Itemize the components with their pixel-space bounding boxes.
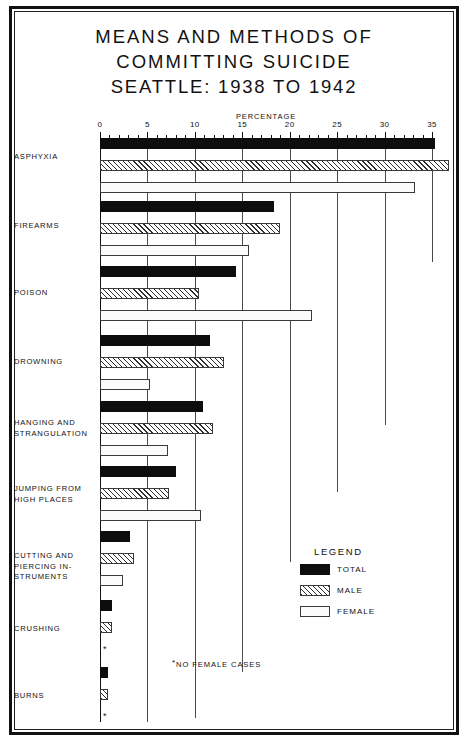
bar-total-poison <box>100 266 236 277</box>
category-label-line: DROWNING <box>14 357 98 368</box>
category-label-asphyxia: ASPHYXIA <box>14 152 98 163</box>
no-data-marker-female-7: * <box>103 644 107 655</box>
category-label-line: FIREARMS <box>14 221 98 232</box>
category-label-line: JUMPING FROM <box>14 484 98 495</box>
category-label-line: STRUMENTS <box>14 572 98 583</box>
legend-item-male: MALE <box>300 585 430 596</box>
gridline-35 <box>432 139 433 262</box>
bar-female-hanging-and-strangulation <box>100 445 168 456</box>
chart-page: MEANS AND METHODS OF COMMITTING SUICIDE … <box>0 0 468 747</box>
bar-total-jumping-from-high-places <box>100 466 176 477</box>
category-label-line: ASPHYXIA <box>14 152 98 163</box>
legend-item-female: FEMALE <box>300 606 430 617</box>
x-axis-tick-labels: 05101520253035 <box>0 120 468 132</box>
no-data-marker-female-8: * <box>103 711 107 722</box>
bar-male-burns <box>100 689 108 700</box>
legend: LEGEND TOTALMALEFEMALE <box>300 546 430 627</box>
category-label-crushing: CRUSHING <box>14 624 98 635</box>
bar-total-hanging-and-strangulation <box>100 401 203 412</box>
gridline-15 <box>242 139 243 672</box>
x-tick-label-10: 10 <box>190 120 200 129</box>
legend-title: LEGEND <box>314 546 430 557</box>
title-line-1: MEANS AND METHODS OF <box>14 24 454 49</box>
bar-female-jumping-from-high-places <box>100 510 201 521</box>
bar-male-firearms <box>100 223 280 234</box>
bar-male-asphyxia <box>100 160 449 171</box>
title-line-3: SEATTLE: 1938 TO 1942 <box>14 74 454 99</box>
bar-total-burns <box>100 667 108 678</box>
category-label-line: CUTTING AND <box>14 551 98 562</box>
legend-swatch-female <box>300 606 330 617</box>
x-tick-label-35: 35 <box>427 120 437 129</box>
category-label-poison: POISON <box>14 288 98 299</box>
bar-male-crushing <box>100 622 112 633</box>
legend-item-total: TOTAL <box>300 564 430 575</box>
bar-female-asphyxia <box>100 182 415 193</box>
category-label-line: HIGH PLACES <box>14 495 98 506</box>
category-label-line: POISON <box>14 288 98 299</box>
chart-title: MEANS AND METHODS OF COMMITTING SUICIDE … <box>14 24 454 99</box>
bar-male-jumping-from-high-places <box>100 488 169 499</box>
category-label-jumping-from-high-places: JUMPING FROMHIGH PLACES <box>14 484 98 505</box>
legend-label-female: FEMALE <box>337 607 375 616</box>
x-tick-label-25: 25 <box>332 120 342 129</box>
bar-female-poison <box>100 310 312 321</box>
category-label-cutting-and-piercing-instruments: CUTTING ANDPIERCING IN-STRUMENTS <box>14 551 98 583</box>
category-label-drowning: DROWNING <box>14 357 98 368</box>
legend-label-total: TOTAL <box>337 565 367 574</box>
category-label-line: PIERCING IN- <box>14 562 98 573</box>
x-tick-label-30: 30 <box>380 120 390 129</box>
x-tick-label-0: 0 <box>98 120 103 129</box>
category-label-hanging-and-strangulation: HANGING ANDSTRANGULATION <box>14 418 98 439</box>
legend-swatch-male <box>300 585 330 596</box>
category-label-burns: BURNS <box>14 691 98 702</box>
legend-swatch-total <box>300 564 330 575</box>
x-tick-label-20: 20 <box>285 120 295 129</box>
category-label-line: HANGING AND <box>14 418 98 429</box>
bar-male-hanging-and-strangulation <box>100 423 213 434</box>
bar-male-cutting-and-piercing-instruments <box>100 553 134 564</box>
footnote: *NO FEMALE CASES <box>172 658 261 669</box>
bar-female-firearms <box>100 245 249 256</box>
category-label-firearms: FIREARMS <box>14 221 98 232</box>
category-label-line: BURNS <box>14 691 98 702</box>
bar-total-cutting-and-piercing-instruments <box>100 531 130 542</box>
category-label-line: STRANGULATION <box>14 429 98 440</box>
bar-female-drowning <box>100 379 150 390</box>
footnote-text: NO FEMALE CASES <box>176 660 261 669</box>
x-tick-label-5: 5 <box>145 120 150 129</box>
bar-female-cutting-and-piercing-instruments <box>100 575 123 586</box>
bar-male-drowning <box>100 357 224 368</box>
legend-label-male: MALE <box>337 586 363 595</box>
bar-total-drowning <box>100 335 210 346</box>
legend-rows: TOTALMALEFEMALE <box>300 564 430 617</box>
x-tick-label-15: 15 <box>237 120 247 129</box>
title-line-2: COMMITTING SUICIDE <box>14 49 454 74</box>
category-label-line: CRUSHING <box>14 624 98 635</box>
bar-total-crushing <box>100 600 112 611</box>
bar-male-poison <box>100 288 199 299</box>
bar-total-asphyxia <box>100 138 435 149</box>
bar-total-firearms <box>100 201 274 212</box>
gridline-20 <box>290 139 291 562</box>
